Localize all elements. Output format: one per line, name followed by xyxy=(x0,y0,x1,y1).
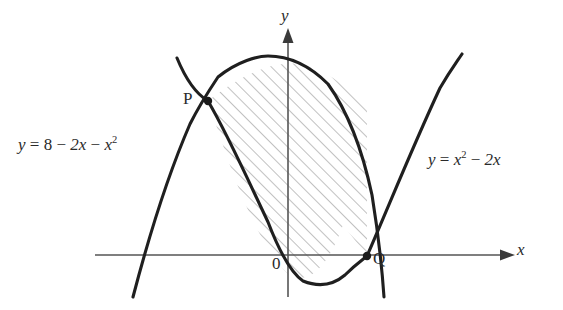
eq2-lhs: y xyxy=(428,150,436,169)
x-axis-label: x xyxy=(517,241,525,258)
equation-label-downward-parabola: y = 8 − 2x − x2 xyxy=(18,136,117,153)
eq-lhs: y xyxy=(18,135,26,154)
eq-exponent-2: 2 xyxy=(112,134,117,145)
eq-constant: 8 xyxy=(44,135,53,154)
eq-term-2: x xyxy=(104,135,112,154)
y-axis-arrow-icon xyxy=(283,28,294,43)
eq2-equals: = xyxy=(440,150,450,169)
equation-label-upward-parabola: y = x2 − 2x xyxy=(428,151,501,168)
point-marker-p xyxy=(204,97,212,105)
point-label-p: P xyxy=(183,90,192,107)
point-marker-q xyxy=(363,252,371,260)
eq2-minus-1: − xyxy=(471,150,481,169)
eq-minus-1: − xyxy=(56,135,66,154)
origin-label: 0 xyxy=(272,255,281,272)
y-axis-label: y xyxy=(281,7,289,24)
eq-equals: = xyxy=(30,135,40,154)
math-figure: y = 8 − 2x − x2 y = x2 − 2x P Q 0 x y xyxy=(0,0,563,310)
point-label-q: Q xyxy=(373,250,385,267)
x-axis-arrow-icon xyxy=(500,250,515,261)
eq-term-1: 2x xyxy=(70,135,86,154)
eq-minus-2: − xyxy=(91,135,101,154)
eq2-term-2: 2x xyxy=(485,150,501,169)
